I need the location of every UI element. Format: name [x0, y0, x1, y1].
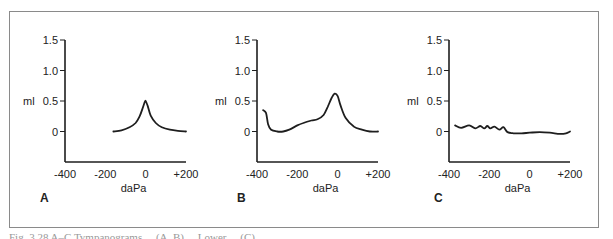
x-axis-label: daPa	[313, 182, 340, 194]
panel-label-c: C	[434, 191, 443, 205]
x-tick-label: -400	[54, 168, 76, 180]
x-tick-label: -400	[246, 168, 268, 180]
x-axis-label: daPa	[505, 182, 532, 194]
x-tick-label: -200	[286, 168, 308, 180]
y-tick-label: 0.5	[43, 95, 58, 107]
x-tick-label: -200	[94, 168, 116, 180]
x-tick-label: +200	[366, 168, 391, 180]
x-tick-label: +200	[174, 168, 199, 180]
figure-caption: Fig. 3.28 A–C Tympanograms ... (A, B) ..…	[9, 231, 266, 239]
y-tick-label: 0.5	[235, 95, 250, 107]
y-tick-label: 1.5	[427, 34, 442, 46]
tympanogram-curve-a	[113, 101, 186, 132]
y-tick-label: 1.5	[43, 34, 58, 46]
tympanogram-figure: 00.51.01.5ml-400-2000+200daPaA00.51.01.5…	[0, 0, 613, 239]
x-tick-label: 0	[335, 168, 341, 180]
panel-label-a: A	[40, 191, 49, 205]
y-axis-label: ml	[23, 95, 35, 107]
y-tick-label: 0.5	[427, 95, 442, 107]
y-tick-label: 1.0	[43, 65, 58, 77]
x-axis-label: daPa	[121, 182, 148, 194]
y-tick-label: 0	[244, 126, 250, 138]
y-tick-label: 1.0	[427, 65, 442, 77]
x-tick-label: +200	[558, 168, 583, 180]
tympanogram-curve-c	[455, 125, 570, 134]
x-tick-label: 0	[527, 168, 533, 180]
panel-label-b: B	[237, 191, 246, 205]
x-tick-label: -200	[478, 168, 500, 180]
x-tick-label: -400	[438, 168, 460, 180]
y-tick-label: 0	[436, 126, 442, 138]
y-tick-label: 0	[52, 126, 58, 138]
x-tick-label: 0	[143, 168, 149, 180]
y-axis-label: ml	[215, 95, 227, 107]
y-axis-label: ml	[407, 95, 419, 107]
y-tick-label: 1.5	[235, 34, 250, 46]
tympanogram-curve-b	[263, 94, 378, 132]
y-tick-label: 1.0	[235, 65, 250, 77]
